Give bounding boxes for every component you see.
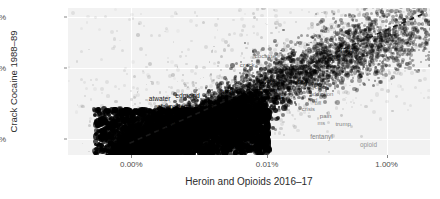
scatter-point xyxy=(338,73,340,75)
scatter-point xyxy=(238,8,242,12)
scatter-point xyxy=(116,144,119,147)
scatter-point xyxy=(345,97,347,99)
scatter-point xyxy=(248,78,251,81)
scatter-point xyxy=(286,73,290,77)
scatter-point xyxy=(429,9,431,11)
scatter-point xyxy=(319,58,322,61)
scatter-point xyxy=(359,84,361,86)
scatter-point xyxy=(377,77,380,80)
scatter-point xyxy=(391,110,393,112)
x-axis-label: Heroin and Opioids 2016–17 xyxy=(68,176,430,187)
scatter-point xyxy=(281,59,285,63)
scatter-point xyxy=(159,152,165,155)
scatter-point xyxy=(279,127,283,131)
scatter-point xyxy=(214,50,217,53)
scatter-point xyxy=(182,113,186,117)
scatter-point xyxy=(351,81,353,83)
scatter-point xyxy=(130,13,134,17)
scatter-point xyxy=(229,98,233,102)
scatter-point xyxy=(185,55,188,58)
scatter-point xyxy=(368,27,370,29)
scatter-point xyxy=(196,15,198,17)
y-axis-tick-mark xyxy=(64,138,67,139)
scatter-point xyxy=(253,84,256,87)
scatter-point xyxy=(356,8,359,11)
scatter-point xyxy=(240,55,242,57)
scatter-point xyxy=(198,104,202,108)
scatter-point xyxy=(404,67,406,69)
scatter-point xyxy=(388,64,391,67)
scatter-point xyxy=(227,153,230,155)
scatter-point xyxy=(346,58,348,60)
scatter-point xyxy=(256,32,260,36)
scatter-point xyxy=(95,78,98,81)
scatter-point xyxy=(176,68,180,72)
scatter-point xyxy=(372,110,376,114)
scatter-point xyxy=(145,88,148,91)
scatter-point xyxy=(375,92,379,96)
scatter-point xyxy=(185,63,187,65)
scatter-point xyxy=(407,109,409,111)
scatter-point xyxy=(202,143,206,147)
scatter-point xyxy=(195,65,199,69)
word-label: bill xyxy=(314,102,321,108)
y-axis-label-wrap: Crack Cocaine 1988–89 xyxy=(6,8,20,155)
scatter-point xyxy=(213,62,217,66)
word-label: atlanta xyxy=(264,94,282,100)
scatter-point xyxy=(139,102,141,104)
scatter-point xyxy=(86,15,89,18)
scatter-point xyxy=(136,93,140,97)
scatter-point xyxy=(89,117,93,121)
scatter-point xyxy=(146,114,151,119)
scatter-point xyxy=(380,88,384,92)
scatter-point xyxy=(301,86,304,89)
scatter-point xyxy=(306,34,309,37)
scatter-point xyxy=(118,88,120,90)
scatter-point xyxy=(128,110,132,114)
scatter-point xyxy=(280,112,283,115)
scatter-point xyxy=(115,129,118,132)
scatter-point xyxy=(259,131,262,134)
scatter-point xyxy=(343,83,347,87)
scatter-point xyxy=(241,107,244,110)
x-axis-tick-mark xyxy=(387,155,388,158)
scatter-point xyxy=(121,49,124,52)
scatter-point xyxy=(295,103,298,106)
scatter-point xyxy=(68,80,70,83)
word-label: death xyxy=(268,79,283,85)
scatter-point xyxy=(188,150,194,156)
scatter-point xyxy=(318,55,321,58)
scatter-point xyxy=(295,21,298,24)
word-label: drug xyxy=(328,54,340,60)
scatter-point xyxy=(339,93,341,95)
scatter-point xyxy=(263,111,266,114)
scatter-point xyxy=(217,61,221,65)
scatter-point xyxy=(274,132,277,135)
scatter-point xyxy=(335,24,339,28)
scatter-point xyxy=(171,91,175,95)
scatter-point xyxy=(342,27,344,29)
scatter-point xyxy=(130,90,133,93)
scatter-point xyxy=(364,63,366,65)
scatter-point xyxy=(326,130,329,133)
scatter-point xyxy=(342,108,344,110)
scatter-point xyxy=(100,131,103,134)
scatter-point xyxy=(383,28,388,33)
scatter-point xyxy=(332,11,336,15)
scatter-point xyxy=(104,112,108,116)
scatter-point xyxy=(220,55,223,58)
scatter-point xyxy=(364,105,368,109)
scatter-point xyxy=(138,90,140,92)
scatter-point xyxy=(228,33,231,36)
scatter-point xyxy=(191,124,193,126)
scatter-point xyxy=(217,29,219,31)
scatter-point xyxy=(286,110,290,114)
scatter-point xyxy=(242,24,246,28)
scatter-point xyxy=(247,73,251,77)
scatter-point xyxy=(411,46,413,48)
scatter-point xyxy=(263,107,265,109)
scatter-point xyxy=(245,151,248,154)
scatter-point xyxy=(268,129,272,133)
scatter-point xyxy=(362,58,366,62)
scatter-point xyxy=(406,33,409,36)
